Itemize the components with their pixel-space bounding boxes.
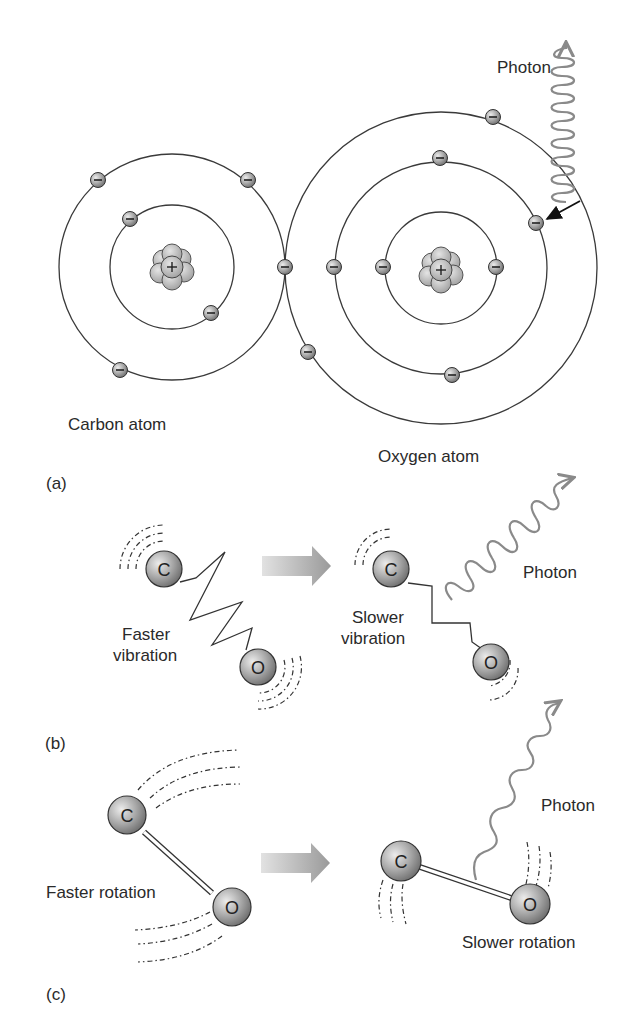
oxygen-atom-model (278, 110, 598, 425)
motion-line (135, 912, 210, 930)
carbon-sphere-icon: C (381, 841, 421, 881)
electron-icon (123, 212, 138, 227)
molecule-faster-vibration: C O (120, 525, 301, 709)
panel-a: Photon Carbon atom Oxygen atom (a) (46, 44, 597, 493)
svg-text:O: O (484, 653, 498, 673)
carbon-nucleus-icon (150, 244, 194, 290)
svg-text:C: C (385, 560, 398, 580)
carbon-atom-label: Carbon atom (68, 415, 166, 434)
electron-icon (486, 110, 501, 125)
svg-text:C: C (395, 852, 408, 872)
carbon-sphere-icon: C (373, 551, 409, 587)
photon-label-c: Photon (541, 796, 595, 815)
electron-icon (301, 345, 316, 360)
oxygen-nucleus-icon (419, 247, 463, 293)
svg-text:O: O (251, 658, 265, 678)
electron-icon (489, 260, 504, 275)
electron-icon (241, 173, 256, 188)
panel-label-a: (a) (46, 474, 67, 493)
motion-line (138, 936, 222, 962)
faster-rotation-label: Faster rotation (46, 883, 156, 902)
transition-arrow-icon (261, 843, 330, 883)
electron-icon (376, 260, 391, 275)
electron-icon (433, 151, 448, 166)
motion-line (138, 750, 238, 790)
rigid-bond (420, 867, 511, 898)
motion-line (379, 880, 383, 918)
faster-vibration-label-1: Faster (122, 625, 171, 644)
oxygen-sphere-icon: O (510, 884, 550, 924)
panel-b: C O Faster vibration C O (45, 478, 577, 753)
shared-electron-icon (278, 260, 293, 275)
motion-line (548, 852, 551, 888)
svg-text:C: C (121, 806, 134, 826)
photon-label-b: Photon (523, 563, 577, 582)
carbon-sphere-icon: C (146, 551, 182, 587)
carbon-sphere-icon: C (108, 796, 146, 834)
motion-line (391, 884, 394, 922)
oxygen-sphere-icon: O (473, 644, 509, 680)
spring-bond (180, 552, 252, 650)
transition-arrow-icon (262, 546, 331, 586)
absorption-arrow-icon (547, 201, 580, 219)
electron-icon (327, 260, 342, 275)
photon-label-a: Photon (497, 58, 551, 77)
motion-line (536, 846, 540, 886)
figure-canvas: Photon Carbon atom Oxygen atom (a) C O F… (0, 0, 641, 1024)
panel-label-b: (b) (45, 734, 66, 753)
molecule-slower-rotation: C O (379, 841, 551, 924)
motion-line (402, 884, 406, 924)
panel-label-c: (c) (46, 985, 66, 1004)
panel-c: C O Faster rotation C (46, 702, 595, 1004)
electron-icon (445, 368, 460, 383)
electron-icon (91, 173, 106, 188)
motion-line (156, 784, 240, 808)
electron-icon (113, 363, 128, 378)
motion-line (138, 924, 212, 944)
oxygen-atom-label: Oxygen atom (378, 447, 479, 466)
oxygen-sphere-icon: O (213, 888, 251, 926)
motion-line (526, 842, 529, 884)
svg-text:O: O (523, 895, 537, 915)
carbon-atom-model (59, 154, 285, 380)
electron-icon (204, 306, 219, 321)
molecule-faster-rotation: C O (108, 750, 251, 962)
oxygen-sphere-icon: O (240, 649, 276, 685)
slower-vibration-label-2: vibration (341, 629, 405, 648)
slower-rotation-label: Slower rotation (462, 933, 575, 952)
svg-text:C: C (158, 560, 171, 580)
electron-icon (529, 216, 544, 231)
faster-vibration-label-2: vibration (113, 646, 177, 665)
photon-wave-c (474, 702, 559, 880)
motion-line (150, 767, 240, 798)
photon-wave-a (547, 44, 580, 219)
slower-vibration-label-1: Slower (352, 608, 404, 627)
svg-text:O: O (225, 898, 239, 918)
relaxed-bond (408, 583, 482, 649)
